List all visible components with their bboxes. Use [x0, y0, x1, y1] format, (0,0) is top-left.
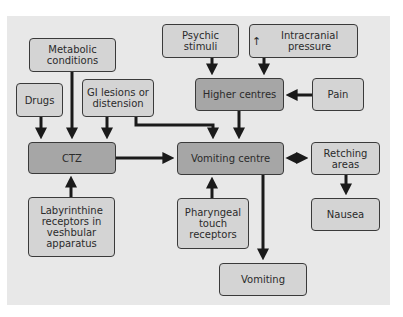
node-psychic-stimuli: Psychic stimuli — [162, 24, 239, 58]
node-pain: Pain — [312, 78, 364, 111]
node-label: Psychic stimuli — [165, 30, 236, 52]
node-retching-areas: Retching areas — [311, 142, 380, 175]
node-gi-lesions: GI lesions or distension — [82, 79, 154, 117]
node-drugs: Drugs — [16, 83, 63, 117]
node-labyrinthine-receptors: Labyrinthine receptors in veshbular appa… — [28, 197, 115, 257]
node-label: Retching areas — [314, 148, 377, 170]
node-label: Labyrinthine receptors in veshbular appa… — [31, 205, 112, 249]
node-higher-centres: Higher centres — [195, 78, 284, 111]
node-label: CTZ — [62, 153, 82, 164]
node-label: Vomiting — [241, 274, 285, 285]
arrow-gi-vomiting-centre — [136, 116, 213, 134]
node-pharyngeal-touch-receptors: Pharyngeal touch receptors — [177, 198, 249, 249]
node-nausea: Nausea — [311, 198, 380, 231]
node-label: Vomiting centre — [191, 153, 270, 164]
node-metabolic-conditions: Metabolic conditions — [29, 38, 116, 72]
node-ctz: CTZ — [28, 142, 116, 174]
node-label: Higher centres — [203, 89, 277, 100]
node-label: Pharyngeal touch receptors — [180, 207, 246, 240]
node-intracranial-pressure: ↑ Intracranial pressure — [249, 24, 358, 58]
node-label: Metabolic conditions — [32, 44, 113, 66]
node-label: Drugs — [25, 95, 55, 106]
node-vomiting-centre: Vomiting centre — [177, 142, 284, 175]
node-label: Intracranial pressure — [264, 30, 355, 52]
node-vomiting: Vomiting — [219, 263, 307, 296]
node-label: Nausea — [327, 209, 364, 220]
node-label: Pain — [328, 89, 349, 100]
node-label: GI lesions or distension — [85, 87, 151, 109]
up-arrow-icon: ↑ — [252, 36, 261, 47]
